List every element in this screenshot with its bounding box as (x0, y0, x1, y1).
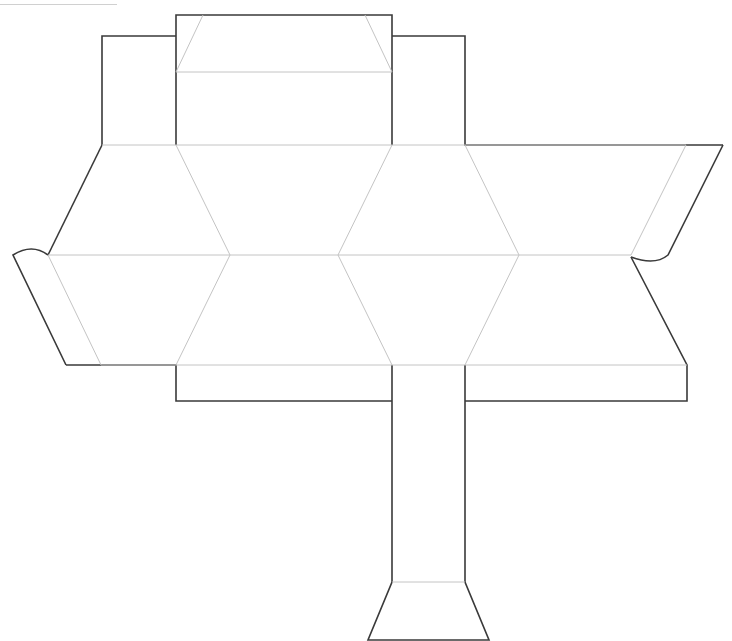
net-diagram (0, 0, 732, 641)
hex-fold (176, 145, 230, 255)
top-flap-diagonal-right (365, 15, 392, 72)
bottom-left-strip-outline (66, 365, 392, 401)
right-tab-fold (631, 145, 686, 255)
cut-outline (13, 15, 723, 640)
left-upper-edge (48, 145, 102, 255)
hex-fold (338, 145, 392, 255)
left-tab-fold (48, 255, 101, 365)
hex-fold (465, 255, 519, 365)
top-left-column-outline (102, 36, 176, 145)
top-right-column-outline (392, 36, 723, 145)
stem-outline (368, 365, 489, 640)
fold-lines (48, 15, 687, 582)
top-flap-diagonal-left (176, 15, 203, 72)
top-flap-outline (176, 15, 392, 145)
hex-fold (176, 255, 230, 365)
right-lower-edge (465, 257, 687, 401)
left-glue-tab-outline (13, 249, 66, 365)
hex-fold (465, 145, 519, 255)
hex-fold (338, 255, 392, 365)
